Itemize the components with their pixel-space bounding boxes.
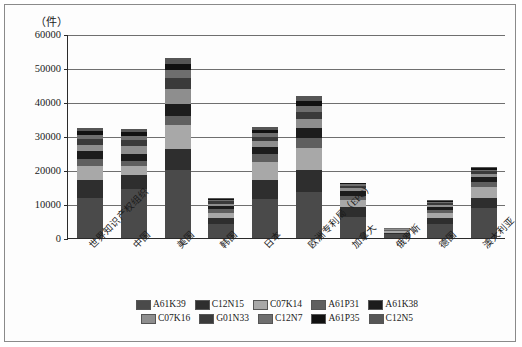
y-tick-label: 20000 [5,166,61,176]
legend-swatch-icon [195,300,210,310]
y-tick-label: 40000 [5,98,61,108]
legend-row: A61K39C12N15C07K14A61P31A61K38 [67,299,487,310]
bar-segment-A61K38 [165,104,191,116]
y-axis-tick-labels: 6000050000400003000020000100000 [5,35,65,239]
legend-swatch-icon [311,300,326,310]
gridline [68,103,505,104]
bar-segment-A61K38 [296,128,322,138]
bar-segment-C07K16 [296,119,322,128]
legend-swatch-icon [258,314,273,324]
bar-segment-A61K38 [121,154,147,161]
gridline [68,69,505,70]
y-tick-mark [64,239,68,240]
y-tick-label: 60000 [5,30,61,40]
legend-item-C07K16[interactable]: C07K16 [141,314,190,324]
y-tick-mark [64,35,68,36]
legend-swatch-icon [311,314,326,324]
legend-item-A61P35[interactable]: A61P35 [311,314,359,324]
bar-segment-C12N15 [165,149,191,170]
legend-label: A61K38 [385,300,418,309]
legend-label: A61P35 [328,314,359,323]
legend-item-G01N33[interactable]: G01N33 [199,314,249,324]
legend-swatch-icon [199,314,214,324]
legend-item-C12N15[interactable]: C12N15 [195,300,244,310]
legend-item-C12N7[interactable]: C12N7 [258,314,302,324]
bar-5[interactable] [252,127,278,238]
legend-item-A61K39[interactable]: A61K39 [136,300,186,310]
legend-label: A61K39 [153,300,186,309]
bar-segment-C12N15 [252,180,278,199]
bar-segment-A61P31 [165,116,191,126]
y-tick-label: 30000 [5,132,61,142]
bar-segment-G01N33 [165,78,191,89]
bar-segment-A61P31 [252,154,278,162]
legend-item-C12N5[interactable]: C12N5 [369,314,413,324]
bar-segment-A61K38 [252,147,278,155]
bar-segment-C07K14 [296,148,322,170]
bar-1[interactable] [77,128,103,238]
bar-segment-C07K14 [471,187,497,197]
y-axis-unit-label: （件） [35,13,68,29]
bar-segment-C07K16 [165,89,191,104]
legend-swatch-icon [369,314,384,324]
legend-label: C12N7 [275,314,302,323]
bar-6[interactable] [296,96,322,238]
bar-segment-C07K16 [121,146,147,155]
legend-item-C07K14[interactable]: C07K14 [253,300,302,310]
bar-segment-C12N15 [471,198,497,209]
chart-legend: A61K39C12N15C07K14A61P31A61K38 C07K16G01… [67,299,487,327]
y-tick-label: 10000 [5,200,61,210]
bar-segment-C12N15 [77,180,103,198]
bar-segment-A61P31 [77,159,103,166]
bar-segment-C07K14 [165,125,191,148]
legend-item-A61P31[interactable]: A61P31 [311,300,359,310]
bar-segment-A61P35 [165,64,191,71]
legend-label: G01N33 [216,314,249,323]
y-tick-mark [64,69,68,70]
legend-label: C12N5 [386,314,413,323]
legend-label: A61P31 [328,300,359,309]
bar-segment-C07K14 [77,166,103,179]
chart-container: （件） 6000050000400003000020000100000 世界知识… [4,4,516,342]
legend-swatch-icon [141,314,156,324]
bar-segment-A61K38 [77,151,103,159]
legend-item-A61K38[interactable]: A61K38 [368,300,418,310]
legend-swatch-icon [136,300,151,310]
bar-segment-C12N7 [165,70,191,78]
legend-label: C07K16 [158,314,190,323]
y-tick-mark [64,103,68,104]
bar-segment-C07K14 [121,166,147,175]
legend-label: C07K14 [270,300,302,309]
legend-swatch-icon [368,300,383,310]
bar-segment-C12N15 [296,170,322,192]
y-tick-mark [64,137,68,138]
y-tick-label: 50000 [5,64,61,74]
legend-swatch-icon [253,300,268,310]
y-tick-mark [64,205,68,206]
legend-label: C12N15 [212,300,244,309]
y-tick-label: 0 [5,234,61,244]
legend-row: C07K16G01N33C12N7A61P35C12N5 [67,313,487,324]
bar-3[interactable] [165,58,191,238]
bar-segment-A61P31 [296,138,322,148]
gridline [68,35,505,36]
bar-segment-C07K14 [252,162,278,180]
bar-2[interactable] [121,129,147,238]
y-tick-mark [64,171,68,172]
